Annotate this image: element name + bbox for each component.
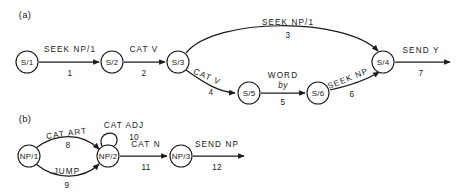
edge-number-1: 1 xyxy=(68,69,73,78)
edge-number-5: 5 xyxy=(281,98,286,107)
edge-label-1: SEEK NP/1 xyxy=(44,45,96,54)
node-label-np2: NP/2 xyxy=(99,152,118,161)
edge-label-12: SEND NP xyxy=(195,140,239,149)
edge-number-9: 9 xyxy=(65,181,70,190)
edge-number-3: 3 xyxy=(286,31,291,40)
edge-label-9: JUMP xyxy=(54,167,81,176)
edge-label-7: SEND Y xyxy=(403,46,440,55)
edge-number-2: 2 xyxy=(142,69,147,78)
panel-label-b: (b) xyxy=(19,113,32,124)
panel-label-a: (a) xyxy=(19,9,32,20)
edge-label-2: CAT V xyxy=(130,45,159,54)
edge-number-4: 4 xyxy=(209,88,214,97)
edge-number-8: 8 xyxy=(66,141,71,150)
atn-figure: (a) SEEK NP/1 1 CAT V 2 SEEK NP/1 3 CAT … xyxy=(0,0,467,196)
node-label-s6: S/6 xyxy=(312,89,325,98)
node-label-s5: S/5 xyxy=(243,89,256,98)
node-label-np1: NP/1 xyxy=(20,152,39,161)
edge-number-6: 6 xyxy=(350,90,355,99)
node-label-s3: S/3 xyxy=(172,58,185,67)
edge-label-10: CAT ADJ xyxy=(104,121,145,130)
edge-label-3: SEEK NP/1 xyxy=(262,18,314,27)
node-label-np3: NP/3 xyxy=(172,152,191,161)
edge-label-11: CAT N xyxy=(131,140,160,149)
edge-number-7: 7 xyxy=(419,69,424,78)
edge-seek-np1-s3-s4 xyxy=(186,26,378,53)
node-label-s4: S/4 xyxy=(377,58,390,67)
atn-diagram-canvas: (a) SEEK NP/1 1 CAT V 2 SEEK NP/1 3 CAT … xyxy=(0,0,467,196)
edge-label-6: SEEK NP xyxy=(326,66,369,91)
edge-number-12: 12 xyxy=(212,163,222,172)
edge-label-5: WORD xyxy=(268,71,298,80)
node-label-s1: S/1 xyxy=(21,58,34,67)
node-label-s2: S/2 xyxy=(106,58,119,67)
edge-sublabel-5: by xyxy=(278,81,288,90)
edge-number-11: 11 xyxy=(142,163,151,172)
